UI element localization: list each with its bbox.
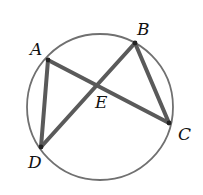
segment-ad <box>41 60 48 147</box>
label-b: B <box>136 19 150 39</box>
point-d <box>39 145 44 150</box>
label-a: A <box>28 39 42 59</box>
point-c <box>167 121 172 126</box>
point-a <box>46 58 51 63</box>
label-d: D <box>27 152 42 172</box>
label-c: C <box>178 124 191 144</box>
segment-bd <box>41 43 135 147</box>
geometry-diagram: A B C D E <box>0 0 203 195</box>
label-e: E <box>94 92 108 112</box>
point-b <box>133 41 138 46</box>
